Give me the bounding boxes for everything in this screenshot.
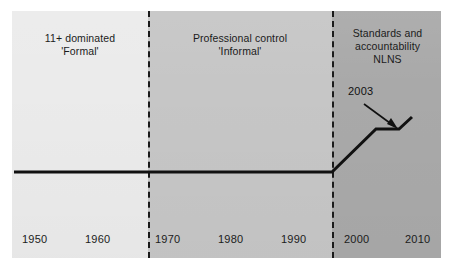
trend-line-overlay [12, 11, 441, 258]
annotation-2003-label: 2003 [348, 85, 373, 97]
axis-tick-1990: 1990 [281, 233, 306, 245]
axis-tick-1950: 1950 [22, 233, 47, 245]
annotation-arrow-head [387, 118, 398, 129]
axis-tick-1960: 1960 [85, 233, 110, 245]
trend-line [14, 117, 412, 172]
axis-tick-2000: 2000 [344, 233, 369, 245]
axis-tick-1970: 1970 [155, 233, 180, 245]
x-axis: 1950 1960 1970 1980 1990 2000 2010 [12, 233, 441, 253]
axis-tick-1980: 1980 [218, 233, 243, 245]
axis-tick-2010: 2010 [405, 233, 430, 245]
chart-plate: 11+ dominated 'Formal' Professional cont… [12, 11, 441, 258]
figure-root: 11+ dominated 'Formal' Professional cont… [0, 0, 454, 270]
